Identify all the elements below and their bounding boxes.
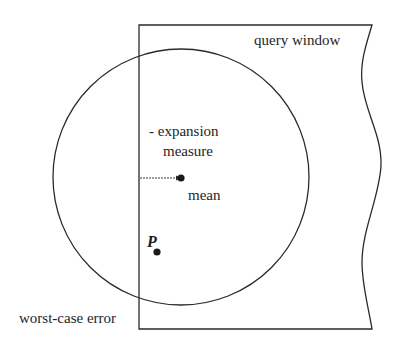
mean-point-icon bbox=[177, 174, 184, 181]
worst-case-error-label: worst-case error bbox=[19, 310, 116, 326]
mean-label: mean bbox=[188, 187, 221, 203]
p-point-label: P bbox=[146, 233, 157, 250]
query-window-diagram: query window - expansion measure mean P … bbox=[0, 0, 397, 345]
expansion-label-line2: measure bbox=[163, 143, 213, 159]
expansion-label-line1: - expansion bbox=[149, 123, 219, 139]
query-window-shape bbox=[139, 25, 381, 329]
query-window-label: query window bbox=[254, 32, 340, 48]
